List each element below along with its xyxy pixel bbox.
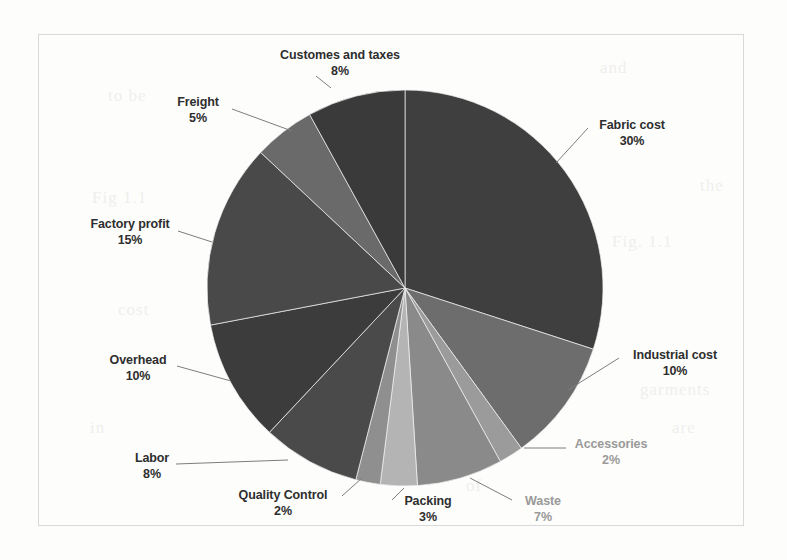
pie-label-factory-profit-percent: 15% bbox=[80, 232, 180, 248]
pie-label-quality-control: Quality Control 2% bbox=[227, 487, 339, 519]
pie-label-waste-name: Waste bbox=[517, 493, 569, 509]
pie-label-quality-control-percent: 2% bbox=[227, 503, 339, 519]
pie-slice-group bbox=[207, 90, 603, 486]
pie-label-quality-control-name: Quality Control bbox=[227, 487, 339, 503]
leader-line-quality-control bbox=[342, 478, 362, 496]
pie-label-customs-percent: 8% bbox=[250, 63, 430, 79]
pie-label-fabric-cost: Fabric cost 30% bbox=[592, 117, 672, 149]
pie-label-packing-percent: 3% bbox=[398, 509, 458, 525]
pie-label-industrial-cost: Industrial cost 10% bbox=[622, 347, 728, 379]
pie-label-freight-percent: 5% bbox=[148, 110, 248, 126]
pie-label-industrial-cost-name: Industrial cost bbox=[622, 347, 728, 363]
pie-chart bbox=[0, 0, 787, 560]
pie-label-labor-name: Labor bbox=[128, 450, 176, 466]
pie-label-accessories-name: Accessories bbox=[570, 436, 652, 452]
pie-label-freight: Freight 5% bbox=[148, 94, 248, 126]
pie-label-waste-percent: 7% bbox=[517, 509, 569, 525]
pie-label-labor: Labor 8% bbox=[128, 450, 176, 482]
pie-label-accessories: Accessories 2% bbox=[570, 436, 652, 468]
pie-label-fabric-cost-percent: 30% bbox=[592, 133, 672, 149]
pie-label-industrial-cost-percent: 10% bbox=[622, 363, 728, 379]
chart-page: to beandFig 1.1thecostFig. 1.1ingarments… bbox=[0, 0, 787, 560]
pie-label-freight-name: Freight bbox=[148, 94, 248, 110]
pie-label-customs: Customes and taxes 8% bbox=[250, 47, 430, 79]
leader-line-waste bbox=[470, 478, 512, 500]
pie-label-overhead: Overhead 10% bbox=[97, 352, 179, 384]
pie-label-overhead-percent: 10% bbox=[97, 368, 179, 384]
pie-label-packing-name: Packing bbox=[398, 493, 458, 509]
leader-line-factory-profit bbox=[178, 231, 212, 242]
pie-label-overhead-name: Overhead bbox=[97, 352, 179, 368]
pie-label-packing: Packing 3% bbox=[398, 493, 458, 525]
pie-label-customs-name: Customes and taxes bbox=[250, 47, 430, 63]
pie-label-labor-percent: 8% bbox=[128, 466, 176, 482]
leader-line-labor bbox=[176, 460, 288, 464]
pie-label-factory-profit: Factory profit 15% bbox=[80, 216, 180, 248]
pie-label-accessories-percent: 2% bbox=[570, 452, 652, 468]
pie-label-fabric-cost-name: Fabric cost bbox=[592, 117, 672, 133]
leader-line-fabric-cost bbox=[556, 128, 588, 163]
pie-label-waste: Waste 7% bbox=[517, 493, 569, 525]
leader-line-overhead bbox=[177, 366, 231, 381]
pie-label-factory-profit-name: Factory profit bbox=[80, 216, 180, 232]
